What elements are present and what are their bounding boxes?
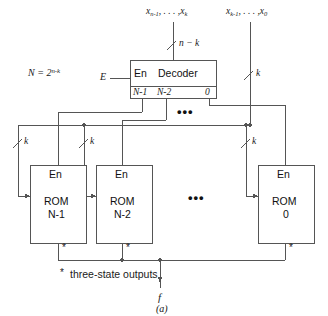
rom-bus-label-0: k [24,137,28,147]
figure-caption: (a) [156,303,168,314]
rom-2-enable-label: En [277,169,290,180]
formula-exponent: n-k [51,67,60,74]
rom-2-output-marker: * [289,243,293,253]
rom-1-output-marker: * [126,243,130,253]
rom-2-index: 0 [283,209,289,220]
input-high-first-sub: n-1 [150,10,159,17]
decoder-enable-input-label: E [100,72,106,82]
input-high-ellipsis: , . . . , [159,6,180,16]
decoder-output-label-0: 0 [205,88,210,98]
arrowhead-rom2 [253,194,258,199]
input-low-last-sub: 0 [264,10,267,17]
three-state-note-marker: * [60,268,64,278]
decoder-output-label-N2: N-2 [157,88,171,98]
rom-0-output-marker: * [62,243,66,253]
wiring-diagram [0,0,328,316]
slash-n-minus-k [167,41,176,50]
input-label-high-group: xn-1, . . . ,xk [146,7,187,17]
junction-dot-out-rom1 [120,258,124,262]
junction-dot-bus-rom2 [244,123,248,127]
decoder-enable-label: En [134,68,147,79]
rom-0-enable-label: En [49,169,62,180]
rom-0-name: ROM [44,196,69,207]
input-label-low-group: xk-1, . . . ,x0 [226,7,267,17]
rom-row-ellipsis: ••• [188,190,205,205]
decoder-title: Decoder [158,68,198,79]
rom-0-index: N-1 [48,209,65,220]
bus-width-label-k-right: k [256,69,260,79]
rom-bus-label-2: k [252,137,256,147]
rom-1-index: N-2 [114,209,131,220]
input-high-last-sub: k [184,10,187,17]
formula-base: N = 2 [28,67,51,78]
three-state-note-text: three-state outputs [70,269,158,280]
rom-1-enable-label: En [115,169,128,180]
rom-2-name: ROM [272,196,297,207]
figure-rom-decoder-diagram: xn-1, . . . ,xk xk-1, . . . ,x0 n − k k … [0,0,328,316]
rom-bus-label-1: k [90,137,94,147]
junction-dot-bus-rom1 [82,123,86,127]
output-label-f: f [158,292,161,303]
arrowhead-rom0 [25,194,30,199]
arrowhead-rom1 [91,194,96,199]
input-low-ellipsis: , . . . , [238,6,259,16]
formula-N-equals: N = 2n-k [28,68,60,78]
bus-width-label-n-minus-k: n − k [179,39,199,49]
junction-dot-bus-end [248,123,252,127]
slash-k-right [244,71,253,80]
arrowhead-f [158,277,163,283]
rom-1-name: ROM [110,196,135,207]
decoder-output-label-N1: N-1 [133,88,147,98]
decoder-outputs-ellipsis: ••• [177,104,194,119]
